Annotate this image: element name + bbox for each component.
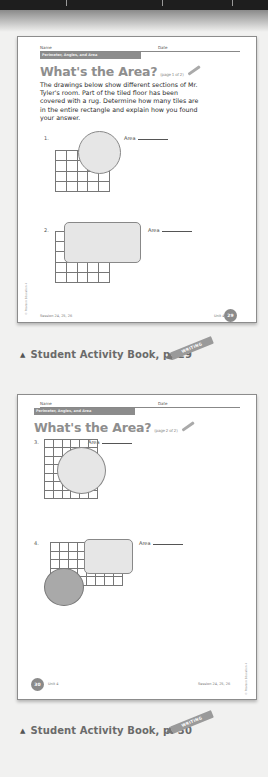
title-sub: (page 2 of 2) — [154, 428, 177, 433]
page-title: What's the Area?(page 2 of 2) — [34, 420, 195, 435]
area-label: Area — [139, 540, 151, 546]
pencil-icon — [187, 65, 200, 75]
area-label: Area — [124, 135, 136, 141]
page-number-badge: 30 — [31, 678, 44, 691]
triangle-up-icon: ▲ — [20, 351, 25, 359]
date-label: Date — [158, 45, 168, 50]
unit-label: Unit 4 — [214, 314, 224, 318]
unit-band: Perimeter, Angles, and Area — [40, 52, 141, 59]
divider-tick — [66, 0, 67, 6]
answer-blank[interactable] — [162, 231, 192, 232]
divider-tick — [162, 0, 163, 6]
activity-page-29: Name Date Perimeter, Angles, and Area Wh… — [17, 36, 257, 323]
area-answer-field[interactable]: Area — [124, 135, 168, 141]
name-label: Name — [40, 401, 52, 406]
question-number: 4. — [34, 540, 39, 546]
triangle-up-icon: ▲ — [20, 727, 25, 735]
unit-band: Perimeter, Angles, and Area — [34, 408, 135, 415]
date-label: Date — [158, 401, 168, 406]
area-answer-field[interactable]: Area — [148, 227, 192, 233]
question-number: 2. — [44, 227, 49, 233]
title-text: What's the Area? — [34, 420, 151, 435]
answer-blank[interactable] — [153, 544, 183, 545]
area-label: Area — [148, 227, 160, 233]
answer-blank[interactable] — [138, 139, 168, 140]
copyright-text: © Pearson Education 4 — [24, 283, 28, 315]
intro-text: The drawings below show different sectio… — [40, 81, 200, 122]
writing-pencil-icon: WRITING — [170, 710, 214, 734]
answer-blank[interactable] — [102, 443, 132, 444]
page-title: What's the Area?(page 1 of 2) — [40, 64, 201, 79]
session-label: Session 24, 25, 26 — [198, 682, 230, 686]
title-text: What's the Area? — [40, 64, 157, 79]
name-label: Name — [40, 45, 52, 50]
top-dark-strip — [0, 0, 268, 10]
rug-circle — [78, 131, 121, 174]
rug-rectangle — [84, 539, 133, 574]
copyright-text: © Pearson Education 4 — [244, 663, 248, 695]
activity-page-30: Name Date Perimeter, Angles, and Area Wh… — [17, 394, 257, 700]
area-answer-field[interactable]: Area — [139, 540, 183, 546]
title-sub: (page 1 of 2) — [160, 72, 183, 77]
session-label: Session 24, 25, 26 — [40, 314, 72, 318]
question-number: 3. — [34, 439, 39, 445]
divider-tick — [232, 0, 233, 6]
rug-rectangle — [64, 222, 141, 263]
writing-pencil-icon: WRITING — [170, 336, 214, 360]
rug-circle — [57, 447, 106, 494]
unit-label: Unit 4 — [48, 682, 58, 686]
question-number: 1. — [44, 135, 49, 141]
rug-circle-dark — [44, 568, 84, 606]
top-shadow — [0, 10, 268, 32]
pencil-icon — [181, 421, 194, 431]
page-number-badge: 29 — [224, 309, 237, 322]
